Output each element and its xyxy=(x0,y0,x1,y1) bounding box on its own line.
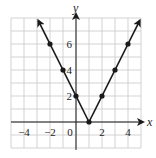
y-tick-label: 4 xyxy=(67,64,73,76)
data-point xyxy=(47,41,52,46)
y-tick-label: 6 xyxy=(67,38,73,50)
x-tick-label: 0 xyxy=(67,126,73,138)
data-point xyxy=(73,93,78,98)
data-point xyxy=(86,119,91,124)
data-point xyxy=(99,93,104,98)
x-tick-label: −2 xyxy=(44,126,56,138)
y-tick-label: 2 xyxy=(67,90,73,102)
y-tick-labels: 246 xyxy=(67,38,73,102)
data-point xyxy=(60,67,65,72)
x-tick-label: 2 xyxy=(99,126,105,138)
function-graph: x y −4−2024 246 xyxy=(0,0,156,158)
x-axis-label: x xyxy=(146,115,153,129)
x-tick-label: 4 xyxy=(125,126,131,138)
data-point xyxy=(125,41,130,46)
y-axis-label: y xyxy=(72,1,79,15)
x-tick-labels: −4−2024 xyxy=(18,126,131,138)
data-point xyxy=(112,67,117,72)
x-tick-label: −4 xyxy=(18,126,30,138)
